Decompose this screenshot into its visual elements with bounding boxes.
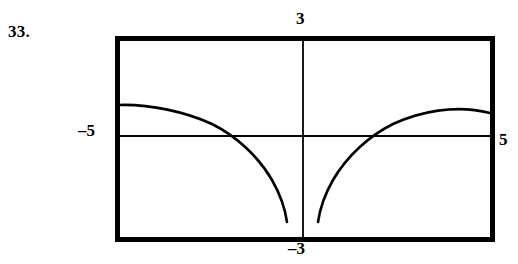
curve-right-branch [318,109,490,222]
y-min-label: –3 [288,240,305,258]
viewing-window-frame [118,39,493,240]
x-max-label: 5 [499,131,508,149]
figure-container: 33. 3 –3 –5 5 [0,0,518,264]
x-min-label: –5 [78,122,95,140]
y-max-label: 3 [296,10,305,28]
curve-left-branch [119,105,287,222]
